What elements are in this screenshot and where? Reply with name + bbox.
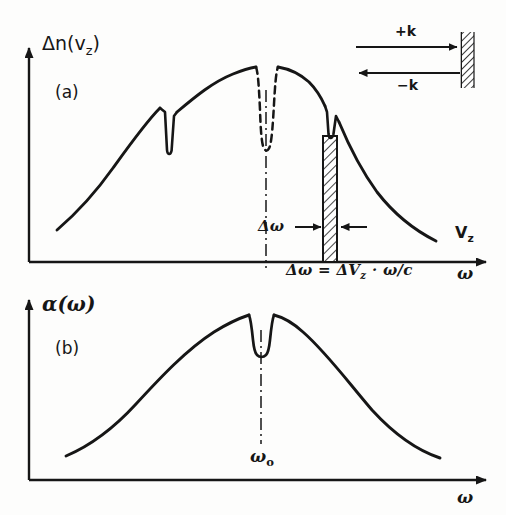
figure-svg (0, 0, 506, 515)
panel-a-curve-left (57, 108, 160, 230)
panel-a-curve-crest-right (278, 67, 325, 106)
panel-a-x-axis-label-sub: z (467, 232, 473, 245)
backward-k-label: −k (397, 78, 418, 92)
figure-container: Δn(vz) (a) +k −k Δω Vz ω Δω = ΔVz · ω/c … (0, 0, 506, 515)
panel-a-central-dashed-hole (256, 67, 278, 151)
mirror-hatched-block (462, 32, 474, 88)
panel-b-tag: (b) (55, 340, 79, 357)
panel-a-right-hole (325, 106, 339, 138)
delta-omega-hatched-band (323, 136, 337, 262)
panel-a-curve-right (339, 122, 436, 241)
panel-b-curve-right (274, 315, 440, 458)
forward-k-label: +k (395, 24, 416, 38)
omega-zero-subscript: o (266, 455, 274, 469)
panel-b-y-axis-label: α(ω) (42, 294, 95, 314)
panel-a-omega-label: ω (457, 265, 473, 282)
panel-b-x-axis-label: ω (457, 489, 473, 506)
delta-omega-label: Δω (258, 219, 284, 234)
panel-a-tag: (a) (55, 84, 79, 101)
panel-a-y-axis-label: Δn(vz) (42, 34, 100, 57)
panel-a-curve-crest-left (177, 67, 256, 112)
panel-a-x-axis-label: Vz (455, 225, 474, 245)
delta-omega-formula: Δω = ΔVz · ω/c (286, 263, 413, 280)
panel-a-left-hole (160, 108, 177, 154)
panel-b-curve-left (66, 315, 249, 456)
omega-zero-label: ωo (250, 448, 274, 469)
